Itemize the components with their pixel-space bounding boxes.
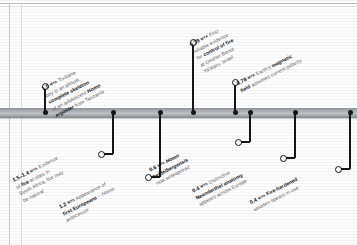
leader-ring-heidelbergensis — [235, 139, 242, 146]
event-caption-neanderthal-anatomy: 0.4 MYA Distinctive Neanderthal anatomya… — [191, 164, 249, 208]
leader-ring-neanderthal-anatomy — [280, 155, 287, 162]
event-caption-first-europeans: 1.2 MYA Appearance of first Europeans – … — [58, 178, 119, 224]
page-top-rule — [0, 3, 357, 4]
timeline-node-control-of-fire[interactable] — [191, 110, 196, 115]
event-caption-fire-south-africa: 1.5–1.4 MYA Evidence of fire at sites in… — [11, 155, 69, 205]
event-caption-fire-hardened-spears: 0.4 MYA Fire-hardened wooden spears in u… — [249, 176, 303, 214]
leader-ring-fire-hardened-spears — [335, 166, 342, 173]
timeline-node-first-europeans[interactable] — [158, 110, 163, 115]
timeline-node-neanderthal-anatomy[interactable] — [293, 110, 298, 115]
timeline-node-fire-south-africa[interactable] — [111, 110, 116, 115]
event-caption-control-of-fire: 0.79 MYA First reliable evidencefor cont… — [189, 24, 242, 76]
paper-texture — [0, 0, 357, 245]
left-gutter-rule-inner — [21, 4, 22, 245]
event-caption-magnetic-polarity: 0.78 MYA Earth's magnetic field assumes … — [236, 50, 303, 94]
left-gutter-rule-outer — [9, 4, 10, 245]
timeline-node-heidelbergensis[interactable] — [248, 110, 253, 115]
event-caption-heidelbergensis: 0.6 MYA Homo heidelbergensisnow widespre… — [148, 149, 193, 187]
timeline-figure: 1.5 MYA Turkana boy is an almostcomplete… — [0, 0, 357, 245]
timeline-node-magnetic-polarity[interactable] — [233, 110, 238, 115]
page-top-rule-secondary — [0, 6, 357, 7]
leader-ring-fire-south-africa — [98, 151, 105, 158]
timeline-node-turkana-boy[interactable] — [43, 110, 48, 115]
timeline-node-fire-hardened-spears[interactable] — [348, 110, 353, 115]
